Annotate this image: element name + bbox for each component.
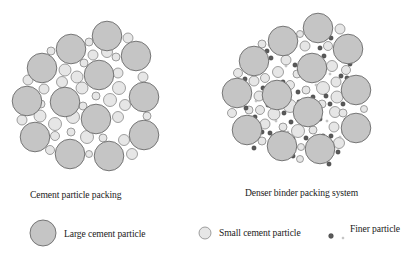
small-cement-particle [127,149,138,160]
small-cement-particle [138,72,148,82]
large-cement-particle [268,26,298,56]
small-cement-particle [92,92,100,100]
small-cement-particle [57,77,68,88]
small-cement-particle [46,146,55,155]
finer-particle [293,63,297,67]
legend-label-finer: Finer particle [350,223,400,234]
small-cement-particle [17,115,27,125]
small-cement-particle [329,122,339,132]
large-cement-particle [341,113,371,143]
small-cement-particle [342,66,351,75]
cement-particle-packing-figure [12,21,159,171]
large-cement-particle [81,104,111,134]
small-cement-particle [298,144,305,151]
small-cement-particle [143,112,151,120]
small-cement-particle [331,77,341,87]
finer-particle [324,94,328,98]
small-cement-particle [99,134,107,142]
small-cement-particle [113,68,123,78]
finest-particle [326,120,328,122]
large-cement-particle [50,87,80,117]
small-cement-particle [67,128,75,136]
small-cement-particle [113,82,126,95]
large-cement-particle [84,60,114,90]
small-cement-particle [335,24,345,34]
finer-particle [296,90,300,94]
legend-label-large: Large cement particle [64,228,145,239]
large-cement-particle [55,139,85,169]
large-cement-particle [333,34,363,64]
small-cement-particle [86,151,93,158]
small-cement-particle [324,42,333,51]
large-cement-particle-icon [30,220,56,246]
small-cement-particle [49,118,62,131]
large-cement-particle [222,78,252,108]
small-cement-particle [119,135,130,146]
small-cement-particle [234,69,243,78]
large-cement-particle [27,53,57,83]
finer-particle [304,136,308,140]
small-cement-particle [228,109,237,118]
small-cement-particle [104,94,117,107]
finer-particle [336,150,340,154]
small-cement-particle [292,125,305,138]
small-cement-particle [281,55,291,65]
finer-particle-dark-icon [329,234,334,239]
small-cement-particle [317,82,330,95]
finest-particle [285,65,287,67]
large-cement-particle [129,82,159,112]
small-cement-particle [309,126,317,134]
large-cement-particle [341,75,371,105]
finer-particle [318,46,322,50]
packing-diagram [0,0,416,258]
small-cement-particle [88,50,98,60]
denser-binder-packing-figure [222,13,371,166]
small-cement-particle [261,74,270,83]
large-cement-particle [94,141,124,171]
small-cement-particle-icon [199,227,211,239]
large-cement-particle [305,134,335,164]
finer-particle [269,56,273,60]
small-cement-particle [85,38,93,46]
finest-particle [339,136,341,138]
small-cement-particle [327,61,338,72]
small-cement-particle [300,41,310,51]
small-cement-particle [297,156,304,163]
small-cement-particle [59,64,71,76]
finer-particle [252,146,256,150]
small-cement-particle [71,71,83,83]
finer-particle [244,106,248,110]
small-cement-particle [51,132,60,141]
large-cement-particle [239,46,269,76]
small-cement-particle [39,84,49,94]
small-cement-particle [302,86,310,94]
finer-particle [341,102,345,106]
finer-particle-light-icon [342,237,344,239]
finest-particle [315,84,317,86]
legend-label-small: Small cement particle [219,227,301,238]
small-cement-particle [120,100,131,111]
large-cement-particle [12,86,42,116]
finer-particle [328,102,332,106]
finest-particle [275,120,277,122]
small-cement-particle [361,106,368,113]
small-cement-particle [47,47,55,55]
large-cement-particle [303,13,333,43]
finest-particle [255,100,257,102]
large-cement-particle [20,122,50,152]
small-cement-particle [76,82,88,94]
large-cement-particle [232,115,262,145]
large-cement-particle [293,97,323,127]
finer-particle [268,131,272,135]
caption-denser-binder-packing: Denser binder packing system [245,187,358,198]
large-cement-particle [92,21,122,51]
large-cement-particle [56,34,86,64]
small-cement-particle [339,109,347,117]
large-cement-particle [129,120,159,150]
small-cement-particle [273,67,284,78]
large-cement-particle [262,80,292,110]
small-cement-particle [249,76,259,86]
small-cement-particle [112,53,120,61]
large-cement-particle [267,131,297,161]
large-cement-particle [297,53,327,83]
